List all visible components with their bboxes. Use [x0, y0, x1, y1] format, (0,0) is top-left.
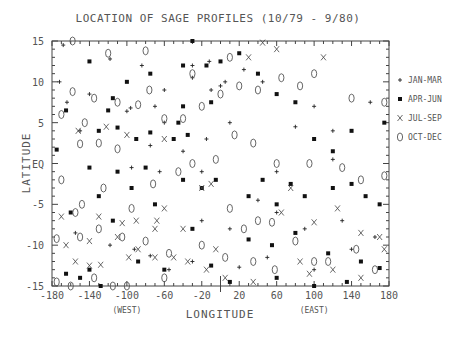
legend-item: JAN-MAR — [398, 76, 442, 85]
x-axis-label: LONGITUDE — [186, 308, 255, 321]
series-oct-dec — [54, 37, 387, 290]
data-points — [54, 37, 387, 290]
x-tick-label: 140 — [343, 290, 361, 301]
x-tick-label: 100 — [305, 290, 323, 301]
x-tick-label: 60 — [271, 290, 283, 301]
plot-frame — [52, 41, 389, 286]
x-tick-label: -100 — [115, 290, 139, 301]
sage-profile-scatter-chart: LOCATION OF SAGE PROFILES (10/79 - 9/80)… — [0, 0, 460, 338]
x-tick-label: -20 — [193, 290, 211, 301]
y-tick-label: 5 — [38, 118, 44, 129]
legend-label: OCT-DEC — [408, 133, 442, 142]
chart-title: LOCATION OF SAGE PROFILES (10/79 - 9/80) — [76, 12, 361, 25]
x-tick-label: -140 — [77, 290, 101, 301]
legend-label: JAN-MAR — [408, 76, 442, 85]
legend-label: JUL-SEP — [408, 114, 442, 123]
y-tick-label: EQ — [32, 159, 44, 170]
x-tick-label: 20 — [233, 290, 245, 301]
x-tick-label: -180 — [40, 290, 64, 301]
y-tick-label: 10 — [32, 77, 44, 88]
legend: JAN-MARAPR-JUNJUL-SEPOCT-DEC — [397, 76, 441, 142]
legend-item: APR-JUN — [398, 95, 442, 104]
x-tick-label: -60 — [155, 290, 173, 301]
y-tick-label: -10 — [26, 240, 44, 251]
series-jul-sep — [59, 40, 387, 285]
series-jan-mar — [57, 43, 376, 272]
y-axis-label: LATITUDE — [20, 133, 33, 194]
x-annotation: (WEST) — [112, 306, 141, 315]
y-tick-label: -5 — [32, 199, 44, 210]
x-annotation: (EAST) — [300, 306, 329, 315]
legend-item: OCT-DEC — [397, 133, 441, 142]
axis-ticks — [52, 41, 389, 292]
y-tick-label: 15 — [32, 36, 44, 47]
x-axis-tick-labels: -180-140-100-60-202060100140180 — [40, 290, 398, 301]
x-tick-label: 180 — [380, 290, 398, 301]
legend-label: APR-JUN — [408, 95, 442, 104]
legend-item: JUL-SEP — [398, 114, 442, 123]
series-apr-jun — [55, 39, 387, 288]
